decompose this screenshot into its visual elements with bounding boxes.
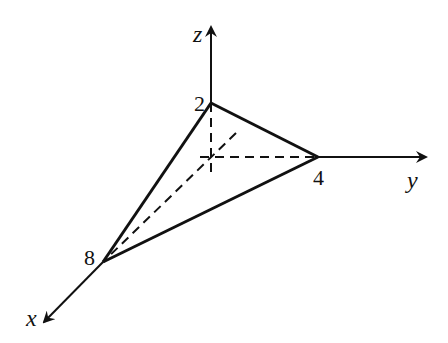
y-axis-label: y [405,167,418,193]
z-intercept-label: 2 [194,91,205,116]
x-axis [44,262,103,322]
edge-x-to-y [103,157,318,262]
x-intercept-label: 8 [84,245,95,270]
x-axis-hidden [103,133,236,262]
z-axis-label: z [192,21,203,47]
edge-z-to-y [211,103,318,157]
coordinate-diagram: z y x 2 4 8 [0,0,448,343]
x-axis-label: x [25,305,37,331]
edge-z-to-x [103,103,211,262]
y-intercept-label: 4 [313,165,324,190]
